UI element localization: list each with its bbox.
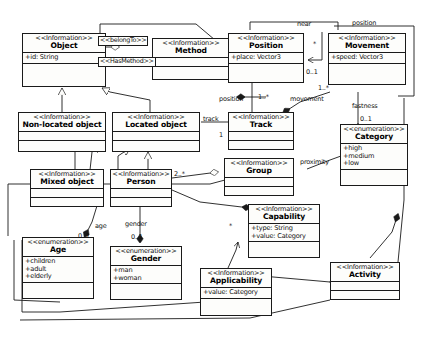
enumeration-category[interactable]: <<enumeration>> Category +high +medium +…	[340, 124, 408, 186]
class-track[interactable]: <<Information>> Track	[228, 112, 294, 150]
class-operations	[23, 64, 105, 70]
class-header: <<Information>> Person	[111, 170, 171, 189]
class-header: <<Information>> Capability	[249, 205, 319, 224]
class-header: <<Information>> Position	[229, 34, 303, 53]
class-position[interactable]: <<Information>> Position +place: Vector3	[228, 33, 304, 83]
class-operations	[249, 242, 319, 248]
class-name: Position	[230, 42, 302, 50]
class-name: Non-located object	[20, 121, 104, 129]
class-object[interactable]: <<Information>> Object +id: String	[22, 33, 106, 87]
class-attributes	[19, 132, 105, 141]
class-name: Mixed object	[32, 178, 102, 186]
association-box-belongto[interactable]: <<belongTo>>	[98, 36, 148, 46]
enumeration-age[interactable]: <<enumeration>> Age +children +adult +el…	[22, 237, 94, 299]
class-attributes: +id: String	[23, 53, 105, 64]
enumeration-gender[interactable]: <<enumeration>> Gender +man +woman	[110, 246, 182, 300]
edge-label-fastness: fastness	[352, 102, 378, 110]
class-operations	[113, 141, 199, 147]
class-header: <<Information>> Track	[229, 113, 293, 132]
class-attributes: +high +medium +low	[341, 144, 407, 170]
class-header: <<Information>> Method	[153, 39, 229, 58]
class-name: Gender	[112, 255, 180, 263]
class-operations	[225, 187, 293, 193]
edge-label-near: near	[297, 20, 311, 28]
class-attributes	[113, 132, 199, 141]
class-non-located-object[interactable]: <<Information>> Non-located object	[18, 112, 106, 152]
class-name: Age	[24, 246, 92, 254]
class-capability[interactable]: <<Information>> Capability +type: String…	[248, 204, 320, 258]
class-attributes: +place: Vector3	[229, 53, 303, 64]
association-box-hasmethod[interactable]: <<HasMethod>>	[98, 57, 156, 67]
edge-label-proximity: proximity	[300, 158, 329, 166]
class-header: <<enumeration>> Category	[341, 125, 407, 144]
class-operations	[329, 64, 405, 70]
edge-label-0-1-gender: 0..1	[131, 233, 143, 241]
class-located-object[interactable]: <<Information>> Located object	[112, 112, 200, 152]
class-name: Object	[24, 42, 104, 50]
edge-label-track: track	[203, 115, 219, 123]
edge-label-age: age	[95, 222, 107, 230]
class-operations	[153, 67, 229, 73]
class-attributes: +man +woman	[111, 266, 181, 285]
class-header: <<Information>> Object	[23, 34, 105, 53]
edge-label-0-1-fastness: 0..1	[360, 115, 372, 123]
class-attributes	[331, 282, 399, 291]
class-name: Capability	[250, 213, 318, 221]
class-header: <<Information>> Non-located object	[19, 113, 105, 132]
class-attributes: +value: Category	[201, 288, 271, 299]
class-attributes: +speed: Vector3	[329, 53, 405, 64]
class-operations	[31, 198, 103, 204]
edge-label-position-top: position	[352, 19, 376, 27]
edge-label-star-near: *	[313, 40, 316, 48]
edge-label-1-star-position: 1..*	[258, 93, 269, 101]
class-name: Category	[342, 133, 406, 141]
class-name: Located object	[114, 121, 198, 129]
class-header: <<enumeration>> Age	[23, 238, 93, 257]
class-header: <<Information>> Mixed object	[31, 170, 103, 189]
class-header: <<enumeration>> Gender	[111, 247, 181, 266]
class-applicability[interactable]: <<Information>> Applicability +value: Ca…	[200, 268, 272, 316]
class-attributes: +type: String +value: Category	[249, 224, 319, 243]
class-name: Activity	[332, 271, 398, 279]
class-operations	[19, 141, 105, 147]
class-attributes	[111, 189, 171, 198]
class-operations	[23, 283, 93, 289]
class-operations	[331, 291, 399, 297]
class-header: <<Information>> Located object	[113, 113, 199, 132]
edge-label-1-track: 1	[219, 131, 223, 139]
edge-label-0-1-age: 0..1	[78, 232, 90, 240]
class-header: <<Information>> Applicability	[201, 269, 271, 288]
edge-label-movement: movement	[290, 95, 324, 103]
edge-label-position-bottom: position	[219, 95, 243, 103]
class-header: <<Information>> Movement	[329, 34, 405, 53]
edge-label-1-star-movement: 1..*	[318, 84, 329, 92]
class-operations	[229, 64, 303, 70]
class-operations	[111, 198, 171, 204]
edge-label-star-capability: *	[229, 222, 232, 230]
class-operations	[201, 299, 271, 305]
class-header: <<Information>> Activity	[331, 263, 399, 282]
class-name: Person	[112, 178, 170, 186]
class-attributes	[229, 132, 293, 141]
class-attributes	[225, 178, 293, 187]
class-name: Applicability	[202, 277, 270, 285]
class-attribute: +value: Category	[251, 233, 317, 241]
class-attributes	[31, 189, 103, 198]
edge-label-2-star: 2..*	[174, 170, 185, 178]
class-method[interactable]: <<Information>> Method	[152, 38, 230, 80]
class-movement[interactable]: <<Information>> Movement +speed: Vector3	[328, 33, 406, 85]
class-group[interactable]: <<Information>> Group	[224, 158, 294, 196]
class-person[interactable]: <<Information>> Person	[110, 169, 172, 207]
class-activity[interactable]: <<Information>> Activity	[330, 262, 400, 300]
class-operations	[229, 141, 293, 147]
edge-label-gender: gender	[125, 220, 147, 228]
class-name: Method	[154, 47, 228, 55]
class-operations	[111, 284, 181, 290]
class-attribute: +id: String	[25, 54, 103, 62]
class-attribute: +elderly	[25, 273, 91, 281]
class-operations	[341, 170, 407, 176]
uml-diagram-canvas: <<Information>> Object +id: String <<Inf…	[0, 0, 426, 346]
class-attributes	[153, 58, 229, 67]
class-mixed-object[interactable]: <<Information>> Mixed object	[30, 169, 104, 207]
class-name: Group	[226, 167, 292, 175]
